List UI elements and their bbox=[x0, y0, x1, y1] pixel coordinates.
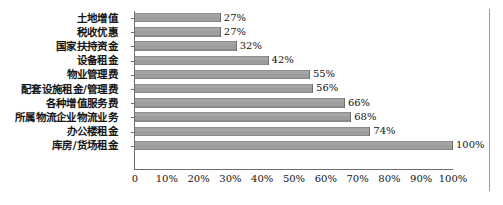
y-axis-tick bbox=[131, 146, 134, 147]
y-axis-tick bbox=[131, 89, 134, 90]
x-axis-tick-labels: 010%20%30%40%50%60%70%80%90%100% bbox=[0, 172, 489, 188]
bar bbox=[135, 84, 313, 93]
bar-row: 物业管理费55% bbox=[0, 68, 489, 82]
bar-value-label: 66% bbox=[348, 97, 370, 109]
y-axis-tick bbox=[131, 18, 134, 19]
category-label: 国家扶持资金 bbox=[0, 41, 118, 52]
bar-value-label: 56% bbox=[316, 82, 338, 94]
bar-row: 土地增值27% bbox=[0, 11, 489, 25]
x-axis-tick-label: 80% bbox=[378, 172, 400, 185]
y-axis-tick bbox=[131, 132, 134, 133]
y-axis-tick bbox=[131, 61, 134, 62]
bar-track: 74% bbox=[135, 125, 489, 139]
category-label: 办公楼租金 bbox=[0, 126, 118, 137]
bar-value-label: 68% bbox=[354, 111, 376, 123]
bar-track: 27% bbox=[135, 25, 489, 39]
bar bbox=[135, 41, 237, 50]
x-axis-tick-label: 90% bbox=[410, 172, 432, 185]
category-label: 所属物流企业物流业务 bbox=[0, 112, 118, 123]
bar-track: 27% bbox=[135, 11, 489, 25]
bar-row: 各种增值服务费66% bbox=[0, 96, 489, 110]
bar-row: 办公楼租金74% bbox=[0, 125, 489, 139]
y-axis-tick bbox=[131, 32, 134, 33]
bar-track: 100% bbox=[135, 139, 489, 153]
x-axis-tick-label: 10% bbox=[156, 172, 178, 185]
x-axis-line bbox=[134, 169, 453, 170]
y-axis-tick bbox=[131, 117, 134, 118]
bar bbox=[135, 27, 221, 36]
x-axis-tick-label: 20% bbox=[187, 172, 209, 185]
x-axis-tick-label: 100% bbox=[439, 172, 468, 185]
bar bbox=[135, 127, 370, 136]
bar-track: 68% bbox=[135, 110, 489, 124]
bar bbox=[135, 98, 345, 107]
x-axis-tick-label: 30% bbox=[219, 172, 241, 185]
bar-track: 66% bbox=[135, 96, 489, 110]
y-axis-tick bbox=[131, 75, 134, 76]
bar-track: 42% bbox=[135, 54, 489, 68]
bar-row: 所属物流企业物流业务68% bbox=[0, 110, 489, 124]
bar-value-label: 27% bbox=[224, 26, 246, 38]
category-label: 土地增值 bbox=[0, 13, 118, 24]
bar-track: 55% bbox=[135, 68, 489, 82]
bar-row: 税收优惠27% bbox=[0, 25, 489, 39]
bar-row: 库房/货场租金100% bbox=[0, 139, 489, 153]
bar-value-label: 74% bbox=[373, 125, 395, 137]
bar-value-label: 32% bbox=[240, 40, 262, 52]
y-axis-tick bbox=[131, 46, 134, 47]
bar-rows: 土地增值27%税收优惠27%国家扶持资金32%设备租金42%物业管理费55%配套… bbox=[0, 11, 489, 169]
bar-value-label: 100% bbox=[456, 139, 485, 151]
figure-frame-right-border bbox=[489, 9, 490, 191]
x-axis-tick-label: 0 bbox=[132, 172, 138, 185]
bar-value-label: 55% bbox=[313, 68, 335, 80]
bar bbox=[135, 13, 221, 22]
x-axis-tick-label: 70% bbox=[346, 172, 368, 185]
bar-value-label: 27% bbox=[224, 12, 246, 24]
bar-row: 设备租金42% bbox=[0, 54, 489, 68]
bar-value-label: 42% bbox=[272, 54, 294, 66]
bar bbox=[135, 56, 269, 65]
bar-chart: 土地增值27%税收优惠27%国家扶持资金32%设备租金42%物业管理费55%配套… bbox=[0, 0, 503, 205]
x-axis-tick-label: 50% bbox=[283, 172, 305, 185]
category-label: 物业管理费 bbox=[0, 69, 118, 80]
category-label: 库房/货场租金 bbox=[0, 140, 118, 151]
category-label: 各种增值服务费 bbox=[0, 98, 118, 109]
bar bbox=[135, 141, 453, 150]
category-label: 设备租金 bbox=[0, 55, 118, 66]
bar bbox=[135, 70, 310, 79]
category-label: 配套设施租金/管理费 bbox=[0, 84, 118, 95]
bar-track: 32% bbox=[135, 39, 489, 53]
bar-row: 国家扶持资金32% bbox=[0, 39, 489, 53]
x-axis-tick-label: 40% bbox=[251, 172, 273, 185]
x-axis-tick-label: 60% bbox=[315, 172, 337, 185]
bar-row: 配套设施租金/管理费56% bbox=[0, 82, 489, 96]
y-axis-tick bbox=[131, 103, 134, 104]
bar-track: 56% bbox=[135, 82, 489, 96]
bar bbox=[135, 112, 351, 121]
category-label: 税收优惠 bbox=[0, 27, 118, 38]
